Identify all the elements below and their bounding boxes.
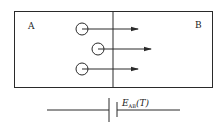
- charge-carrier-2: [92, 43, 151, 55]
- emf-argument: (T): [136, 98, 150, 108]
- charge-carrier-3: [76, 63, 138, 75]
- emf-label: EAB(T): [121, 98, 149, 109]
- emf-source-symbol: [47, 98, 180, 122]
- region-a-label: A: [27, 21, 35, 31]
- region-b-label: B: [195, 20, 202, 30]
- thermoelectric-junction-diagram: A B EAB(T): [0, 0, 224, 131]
- charge-carrier-1: [76, 23, 138, 35]
